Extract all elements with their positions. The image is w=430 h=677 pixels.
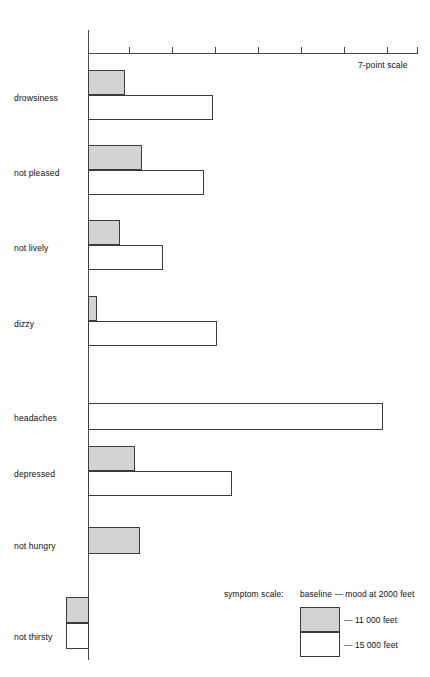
- category-label-drowsiness: drowsiness: [14, 93, 58, 103]
- legend-baseline-label: baseline — mood at 2000 feet: [300, 589, 415, 599]
- bar-not-lively-15000: [88, 245, 163, 270]
- category-label-depressed: depressed: [14, 469, 55, 479]
- category-label-not-pleased: not pleased: [14, 168, 60, 178]
- legend-swatch-15000: [300, 632, 340, 657]
- bar-not-pleased-15000: [88, 170, 204, 195]
- category-label-headaches: headaches: [14, 413, 57, 423]
- bar-not-thirsty-15000: [66, 623, 89, 649]
- bar-depressed-11000: [88, 446, 135, 471]
- bar-depressed-15000: [88, 471, 232, 496]
- axis-tick-2: [172, 47, 173, 53]
- bar-not-hungry-11000: [88, 527, 140, 554]
- bar-not-thirsty-11000: [66, 597, 89, 623]
- category-label-not-thirsty: not thirsty: [14, 632, 52, 642]
- axis-tick-8: [417, 47, 418, 53]
- axis-tick-3: [215, 47, 216, 53]
- category-label-dizzy: dizzy: [14, 319, 34, 329]
- axis-tick-6: [344, 47, 345, 53]
- bar-drowsiness-15000: [88, 95, 213, 120]
- axis-tick-5: [301, 47, 302, 53]
- bar-dizzy-15000: [88, 321, 217, 346]
- category-label-not-hungry: not hungry: [14, 541, 56, 551]
- plot-area: 7-point scale drowsiness not pleased not…: [0, 0, 430, 677]
- legend-swatch-11000: [300, 607, 340, 632]
- bar-not-lively-11000: [88, 220, 120, 245]
- scale-axis: [88, 53, 418, 54]
- legend-scale-label: symptom scale:: [224, 589, 284, 599]
- axis-tick-1: [129, 47, 130, 53]
- bar-dizzy-11000: [88, 296, 97, 321]
- legend-entry-15000: — 15 000 feet: [344, 640, 398, 650]
- category-label-not-lively: not lively: [14, 243, 48, 253]
- axis-tick-7: [387, 47, 388, 53]
- symptom-scale-chart: 7-point scale drowsiness not pleased not…: [0, 0, 430, 677]
- axis-tick-4: [258, 47, 259, 53]
- bar-drowsiness-11000: [88, 70, 125, 95]
- axis-caption: 7-point scale: [358, 60, 408, 70]
- bar-not-pleased-11000: [88, 145, 142, 170]
- bar-headaches-15000: [88, 403, 383, 430]
- legend-entry-11000: — 11 000 feet: [344, 615, 397, 625]
